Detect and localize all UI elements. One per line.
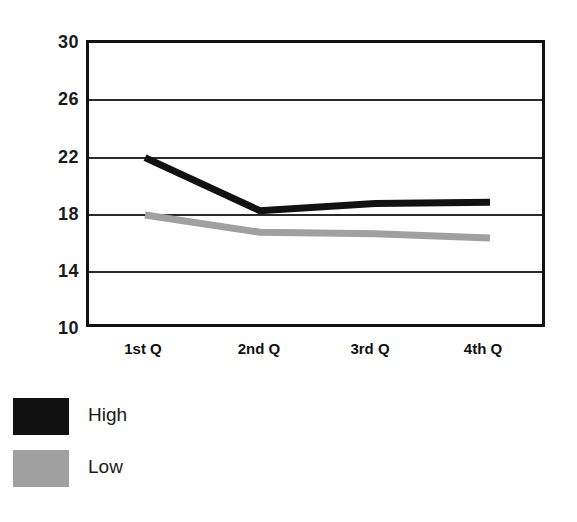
legend-swatch-low [13,450,69,487]
plot-area [86,40,545,327]
x-tick-label-3rd-q: 3rd Q [325,341,415,356]
x-tick-label-4th-q: 4th Q [438,341,528,356]
y-tick-label-26: 26 [19,90,79,108]
y-tick-label-22: 22 [19,148,79,166]
gridline-26 [89,99,542,101]
y-tick-label-30: 30 [19,33,79,51]
x-tick-label-1st-q: 1st Q [98,341,188,356]
legend-label-high: High [88,402,127,429]
gridline-14 [89,271,542,273]
legend-item-low: Low [13,448,273,500]
y-tick-label-14: 14 [19,262,79,280]
legend-item-high: High [13,396,273,448]
legend-label-low: Low [88,454,123,481]
gridline-18 [89,214,542,216]
y-tick-label-18: 18 [19,205,79,223]
gridline-22 [89,157,542,159]
x-tick-label-2nd-q: 2nd Q [214,341,304,356]
chart-legend: High Low [13,396,273,500]
line-chart: 30 26 22 18 14 10 1st Q 2nd Q 3rd Q 4th … [0,0,577,522]
y-tick-label-10: 10 [19,319,79,337]
legend-swatch-high [13,398,69,435]
